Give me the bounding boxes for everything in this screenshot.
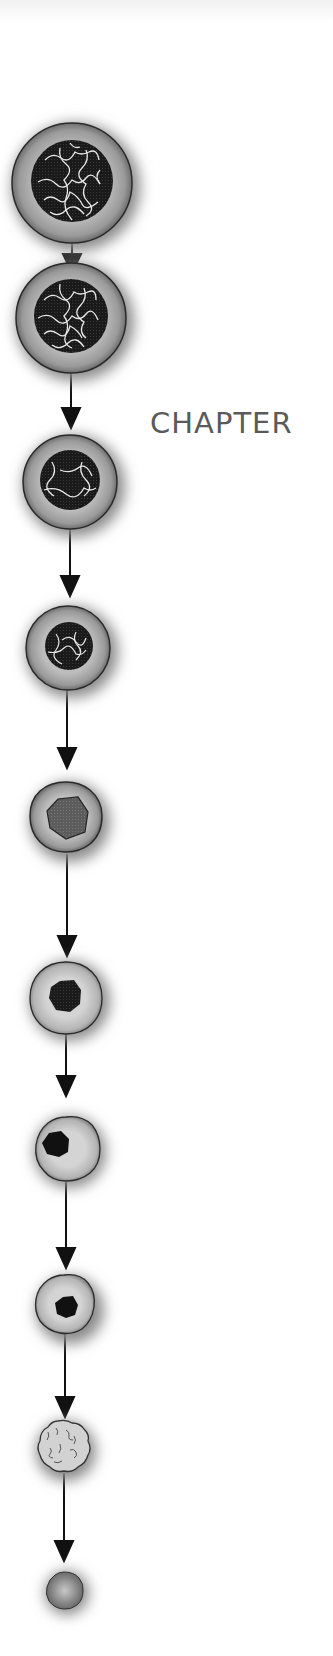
arrow-5-to-6 <box>58 854 76 956</box>
cell-stage-7 <box>34 1116 106 1188</box>
nucleus <box>40 450 100 510</box>
arrow-4-to-5 <box>58 690 76 768</box>
cell-stage-1 <box>12 123 140 251</box>
arrow-6-to-7 <box>57 1033 75 1096</box>
chapter-heading: CHAPTER <box>150 406 293 440</box>
cell-stage-4 <box>26 606 118 698</box>
cell-stage-9 <box>36 1420 96 1481</box>
cell-maturation-diagram <box>0 0 333 1656</box>
arrow-9-to-10 <box>55 1473 73 1561</box>
arrow-7-to-8 <box>57 1182 75 1268</box>
cell-stage-8 <box>36 1275 105 1344</box>
arrow-8-to-9 <box>56 1334 74 1417</box>
cell-stage-3 <box>23 435 125 537</box>
arrow-3-to-4 <box>61 529 79 596</box>
cell-stage-5 <box>30 782 110 862</box>
cell-stage-10 <box>45 1571 89 1615</box>
cell-stage-6 <box>30 961 110 1041</box>
cell-stage-2 <box>16 263 134 381</box>
arrow-2-to-3 <box>62 373 80 428</box>
